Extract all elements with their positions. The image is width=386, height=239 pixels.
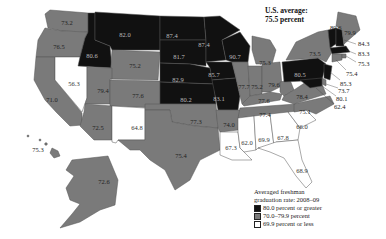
label-al: 69.9 [258, 136, 269, 143]
state-ak [60, 156, 118, 228]
label-nv: 56.3 [68, 80, 79, 87]
label-nd: 87.4 [166, 32, 177, 39]
legend-label-low: 69.9 percent or less [263, 220, 314, 228]
legend-label-high: 80.0 percent or greater [263, 204, 322, 212]
label-me: 79.9 [344, 29, 355, 36]
state-az [80, 104, 112, 140]
legend-item-mid: 70.0–79.9 percent [254, 212, 322, 220]
label-mt: 82.0 [119, 31, 130, 38]
legend-title-line2: graduation rate: 2008–09 [254, 196, 322, 204]
label-nj: 85.3 [340, 80, 351, 87]
state-oh [262, 62, 282, 92]
state-ms [238, 116, 256, 152]
label-wy: 75.2 [129, 62, 140, 69]
label-ri: 75.3 [358, 60, 369, 67]
label-tn: 77.4 [259, 111, 270, 118]
label-de: 73.7 [338, 87, 349, 94]
label-ca: 71.0 [46, 96, 57, 103]
label-ne: 82.9 [172, 76, 183, 83]
label-co: 77.6 [132, 92, 143, 99]
label-fl: 68.9 [296, 167, 307, 174]
label-or: 76.5 [53, 43, 64, 50]
label-mi: 75.3 [259, 59, 270, 66]
state-fl [258, 140, 312, 188]
label-vt: 89.6 [330, 24, 341, 31]
label-la: 67.3 [225, 144, 236, 151]
state-de [322, 78, 326, 86]
label-ma: 83.3 [358, 50, 369, 57]
label-ut: 79.4 [97, 87, 108, 94]
us-average-label: U.S. average: [265, 6, 308, 15]
legend-item-low: 69.9 percent or less [254, 220, 322, 228]
label-ct: 75.4 [346, 70, 357, 77]
us-average-value: 75.5 percent [265, 15, 308, 24]
label-tx: 75.4 [175, 152, 186, 159]
label-ar: 74.0 [223, 121, 234, 128]
label-ok: 77.3 [190, 118, 201, 125]
label-pa: 80.5 [294, 71, 305, 78]
label-sc: 66.0 [296, 123, 307, 130]
label-ks: 80.2 [180, 96, 191, 103]
state-ri [342, 54, 346, 58]
legend-swatch-high-icon [254, 205, 261, 212]
label-nc: 75.1 [299, 108, 310, 115]
label-ky: 77.6 [258, 97, 269, 104]
label-ny: 73.5 [309, 50, 320, 57]
label-ia: 85.7 [208, 71, 219, 78]
label-ga: 67.8 [277, 134, 288, 141]
state-ny [286, 30, 332, 62]
legend-swatch-mid-icon [254, 213, 261, 220]
legend-label-mid: 70.0–79.9 percent [263, 212, 310, 220]
state-ut [85, 67, 112, 104]
state-in [248, 66, 262, 96]
label-id: 80.6 [86, 52, 97, 59]
label-oh: 79.6 [268, 81, 279, 88]
label-mn: 87.4 [198, 41, 209, 48]
label-sd: 81.7 [173, 53, 184, 60]
label-dc: 62.4 [334, 103, 345, 110]
label-az: 72.5 [92, 124, 103, 131]
state-hi-island [39, 139, 41, 141]
state-hi-island [27, 135, 29, 137]
state-hi-island [45, 143, 48, 146]
label-in: 75.2 [251, 83, 262, 90]
legend-title-line1: Averaged freshman [254, 188, 322, 196]
state-hi [50, 148, 60, 158]
label-hi: 75.3 [32, 146, 43, 153]
label-ak: 72.6 [98, 178, 109, 185]
label-il: 77.7 [238, 83, 249, 90]
label-md: 80.1 [336, 95, 347, 102]
label-mo: 83.1 [213, 95, 224, 102]
label-ms: 62.0 [241, 139, 252, 146]
label-nh: 84.3 [358, 40, 369, 47]
label-nm: 64.8 [131, 124, 142, 131]
legend-item-high: 80.0 percent or greater [254, 204, 322, 212]
state-nj [324, 64, 332, 80]
us-average-heading: U.S. average: 75.5 percent [265, 6, 308, 24]
label-va: 78.4 [296, 93, 307, 100]
legend-swatch-low-icon [254, 221, 261, 228]
state-ma [330, 46, 350, 54]
map-legend: Averaged freshman graduation rate: 2008–… [254, 188, 322, 228]
label-wa: 73.2 [61, 19, 72, 26]
label-wi: 90.7 [229, 53, 240, 60]
